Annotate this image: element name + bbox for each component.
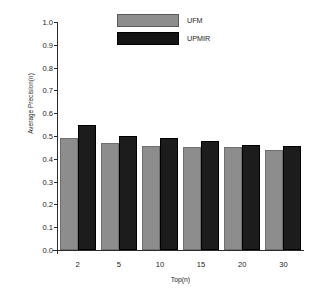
- bar-upmir-2: [78, 125, 96, 250]
- bar-upmir-20: [242, 145, 260, 250]
- x-tick-label-20: 20: [238, 260, 246, 269]
- bar-ufm-20: [224, 147, 242, 250]
- y-tick-label: 0.1: [42, 223, 53, 232]
- y-axis-title: Average Precision(n): [27, 44, 34, 164]
- bar-upmir-15: [201, 141, 219, 250]
- bar-upmir-5: [119, 136, 137, 250]
- y-tick-label: 0.2: [42, 200, 53, 209]
- bar-chart-figure: Average Precision(n) 0.00.10.20.30.40.50…: [0, 0, 336, 297]
- y-tick-label: 0.6: [42, 109, 53, 118]
- legend-label: UFM: [187, 16, 203, 25]
- y-tick-label: 0.0: [42, 246, 53, 255]
- legend-label: UPMIR: [187, 34, 210, 43]
- bar-group-5: [101, 22, 137, 250]
- bar-upmir-10: [160, 138, 178, 250]
- bar-group-10: [142, 22, 178, 250]
- y-tick-mark: [54, 250, 58, 251]
- x-axis-title: Top(n): [57, 276, 304, 283]
- bar-group-30: [265, 22, 301, 250]
- x-tick-label-15: 15: [197, 260, 205, 269]
- x-tick-label-30: 30: [279, 260, 287, 269]
- bar-group-2: [60, 22, 96, 250]
- x-tick-label-10: 10: [156, 260, 164, 269]
- bar-group-15: [183, 22, 219, 250]
- x-tick-label-5: 5: [117, 260, 121, 269]
- x-tick-label-2: 2: [75, 260, 79, 269]
- plot-area: 0.00.10.20.30.40.50.60.70.80.91.0 251015…: [57, 22, 304, 250]
- bar-upmir-30: [283, 146, 301, 250]
- bar-ufm-10: [142, 146, 160, 250]
- y-tick-label: 0.9: [42, 40, 53, 49]
- legend-swatch-upmir: [117, 32, 179, 45]
- y-tick-label: 0.5: [42, 132, 53, 141]
- legend-swatch-ufm: [117, 14, 179, 27]
- y-tick-label: 1.0: [42, 18, 53, 27]
- y-tick-label: 0.7: [42, 86, 53, 95]
- y-tick-label: 0.8: [42, 63, 53, 72]
- bar-ufm-5: [101, 143, 119, 250]
- bar-ufm-15: [183, 147, 201, 250]
- y-tick-label: 0.3: [42, 177, 53, 186]
- bar-ufm-2: [60, 138, 78, 250]
- x-axis-line: [53, 250, 304, 251]
- y-tick-label: 0.4: [42, 154, 53, 163]
- bar-group-20: [224, 22, 260, 250]
- bar-series-container: [57, 22, 304, 250]
- bar-ufm-30: [265, 150, 283, 250]
